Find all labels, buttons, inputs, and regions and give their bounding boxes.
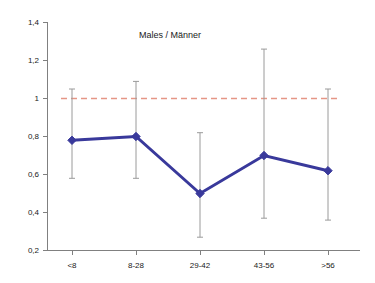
line-chart-with-error-bars: 0,2 0,4 0,6 0,8 1 1,2 1,4 <8 8-28 29-42 …	[0, 0, 375, 283]
y-tick-label: 0,8	[28, 132, 40, 141]
chart-container: 0,2 0,4 0,6 0,8 1 1,2 1,4 <8 8-28 29-42 …	[0, 0, 375, 283]
y-tick-label: 1	[35, 94, 40, 103]
y-tick-label: 1,2	[28, 56, 40, 65]
x-category-label: <8	[67, 261, 77, 270]
x-category-label: 29-42	[190, 261, 211, 270]
y-tick-label: 0,6	[28, 170, 40, 179]
y-tick-label: 1,4	[28, 18, 40, 27]
chart-background	[0, 0, 375, 283]
x-category-label: >56	[321, 261, 335, 270]
y-tick-label: 0,4	[28, 208, 40, 217]
x-category-label: 43-56	[254, 261, 275, 270]
chart-title: Males / Männer	[139, 30, 201, 40]
y-tick-label: 0,2	[28, 246, 40, 255]
x-category-label: 8-28	[128, 261, 145, 270]
